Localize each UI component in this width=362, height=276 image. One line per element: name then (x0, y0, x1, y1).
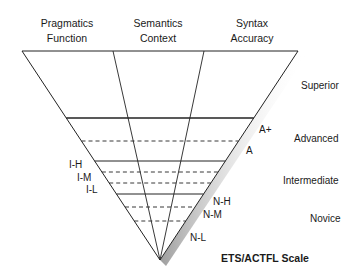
sublevel-i-m: I-M (77, 172, 91, 184)
column-heading-line2: Context (113, 31, 203, 46)
column-heading-line1: Syntax (207, 16, 297, 31)
sublevel-n-m: N-M (203, 209, 222, 221)
level-advanced: Advanced (294, 133, 338, 145)
level-novice: Novice (310, 213, 341, 225)
column-heading-semantics: Semantics Context (113, 16, 203, 46)
sublevel-i-h: I-H (69, 159, 82, 171)
column-heading-line2: Function (22, 31, 112, 46)
sublevel-a-plus: A+ (259, 124, 272, 136)
scale-title: ETS/ACTFL Scale (221, 252, 309, 264)
column-heading-line2: Accuracy (207, 31, 297, 46)
level-superior: Superior (301, 80, 339, 92)
sublevel-n-h: N-H (213, 196, 231, 208)
sublevel-a: A (246, 145, 253, 157)
sublevel-n-l: N-L (190, 232, 206, 244)
column-heading-pragmatics: Pragmatics Function (22, 16, 112, 46)
column-heading-syntax: Syntax Accuracy (207, 16, 297, 46)
sublevel-i-l: I-L (86, 184, 98, 196)
column-heading-line1: Pragmatics (22, 16, 112, 31)
column-heading-line1: Semantics (113, 16, 203, 31)
triangle-outline (22, 51, 298, 260)
level-intermediate: Intermediate (283, 175, 339, 187)
